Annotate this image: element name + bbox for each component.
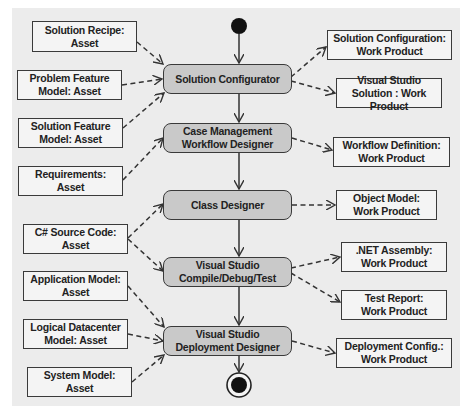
- activity-vs-deployment-designer: Visual StudioDeployment Designer: [163, 326, 292, 356]
- asset-label: Problem Feature: [30, 72, 110, 85]
- work-product-label: Work Product: [345, 353, 444, 366]
- asset-label: Asset: [45, 37, 125, 50]
- activity-solution-configurator: Solution Configurator: [163, 64, 292, 94]
- activity-case-management-workflow-designer: Case ManagementWorkflow Designer: [163, 123, 292, 153]
- activity-label: Case Management: [182, 125, 274, 138]
- activity-label: Deployment Designer: [175, 341, 279, 354]
- asset-csharp-source-code: C# Source Code:Asset: [23, 224, 128, 254]
- final-node-icon: [231, 377, 247, 393]
- work-product-label: Solution Configuration:: [333, 32, 446, 45]
- work-product-label: Visual Studio: [337, 74, 441, 87]
- asset-label: C# Source Code:: [35, 226, 117, 239]
- work-product-label: Deployment Config.:: [345, 340, 444, 353]
- work-product-label: .NET Assembly:: [356, 244, 433, 257]
- asset-label: Asset: [30, 286, 120, 299]
- asset-solution-feature-model: Solution FeatureModel: Asset: [18, 118, 123, 148]
- asset-label: Solution Recipe:: [45, 24, 125, 37]
- asset-label: Model: Asset: [30, 334, 120, 347]
- activity-vs-compile-debug-test: Visual StudioCompile/Debug/Test: [163, 257, 292, 287]
- asset-label: Logical Datacenter: [30, 321, 120, 334]
- activity-class-designer: Class Designer: [163, 190, 292, 220]
- asset-label: Asset: [44, 382, 116, 395]
- work-product-visual-studio-solution: Visual StudioSolution : Work Product: [336, 78, 442, 108]
- asset-application-model: Application Model:Asset: [23, 271, 128, 301]
- asset-system-model: System Model:Asset: [27, 367, 132, 397]
- work-product-label: Object Model:: [353, 192, 420, 205]
- work-product-net-assembly: .NET Assembly:Work Product: [341, 242, 447, 272]
- work-product-label: Work Product: [343, 152, 441, 165]
- work-product-object-model: Object Model:Work Product: [336, 190, 437, 220]
- asset-solution-recipe: Solution Recipe:Asset: [32, 21, 137, 52]
- work-product-label: Work Product: [333, 45, 446, 58]
- asset-label: Requirements:: [35, 168, 106, 181]
- activity-label: Compile/Debug/Test: [179, 272, 276, 285]
- work-product-workflow-definition: Workflow Definition:Work Product: [333, 137, 450, 167]
- asset-label: Solution Feature: [31, 120, 111, 133]
- asset-label: Asset: [35, 181, 106, 194]
- work-product-deployment-config: Deployment Config.:Work Product: [336, 338, 452, 368]
- work-product-label: Work Product: [353, 205, 420, 218]
- activity-label: Solution Configurator: [175, 73, 279, 86]
- work-product-label: Workflow Definition:: [343, 139, 441, 152]
- work-product-label: Work Product: [356, 257, 433, 270]
- asset-label: Asset: [35, 239, 117, 252]
- asset-requirements: Requirements:Asset: [18, 166, 123, 196]
- work-product-label: Solution : Work Product: [337, 87, 441, 113]
- asset-problem-feature-model: Problem FeatureModel: Asset: [17, 70, 122, 100]
- activity-label: Workflow Designer: [182, 138, 274, 151]
- activity-label: Visual Studio: [175, 328, 279, 341]
- asset-label: Model: Asset: [31, 133, 111, 146]
- work-product-solution-configuration: Solution Configuration:Work Product: [327, 30, 452, 60]
- initial-node-icon: [231, 18, 247, 34]
- activity-label: Class Designer: [191, 199, 264, 212]
- asset-label: Application Model:: [30, 273, 120, 286]
- work-product-label: Work Product: [361, 305, 427, 318]
- asset-label: System Model:: [44, 369, 116, 382]
- work-product-label: Test Report:: [361, 292, 427, 305]
- activity-label: Visual Studio: [179, 259, 276, 272]
- asset-logical-datacenter-model: Logical DatacenterModel: Asset: [23, 319, 128, 349]
- work-product-test-report: Test Report:Work Product: [341, 290, 447, 320]
- asset-label: Model: Asset: [30, 85, 110, 98]
